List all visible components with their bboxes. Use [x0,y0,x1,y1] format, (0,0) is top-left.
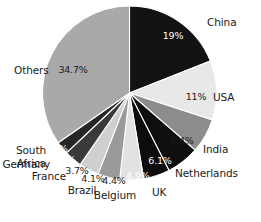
category-label-usa: USA [213,91,235,103]
category-label-india: India [203,143,228,155]
percent-label-uk: 4.9% [126,170,150,181]
category-label-france: France [32,170,66,182]
category-label-brazil: Brazil [68,184,97,196]
percent-label-india: 6.4% [170,135,194,146]
category-label-south: South [16,144,46,156]
category-label-netherlands: Netherlands [175,167,238,179]
pie-chart-svg: 19% 11% 6.4% 6.1% 4.9% 4.4% 4.1% 3.7% 3.… [0,0,261,222]
pie-chart-figure: 19% 11% 6.4% 6.1% 4.9% 4.4% 4.1% 3.7% 3.… [0,0,261,222]
category-label-china: China [207,16,237,28]
percent-label-belgium: 4.4% [102,175,126,186]
category-label-uk: UK [152,186,168,198]
percent-label-usa: 11% [186,91,207,102]
percent-label-china: 19% [163,30,184,41]
category-label-africa: Africa [17,157,46,169]
percent-label-germany: 3.3% [52,154,76,165]
category-label-others: Others [14,64,49,76]
category-label-belgium: Belgium [94,189,136,201]
percent-label-south-africa: 2.4% [44,143,68,154]
percent-label-netherlands: 6.1% [148,155,172,166]
percent-label-others: 34.7% [58,64,87,75]
percent-label-france: 3.7% [65,165,89,176]
